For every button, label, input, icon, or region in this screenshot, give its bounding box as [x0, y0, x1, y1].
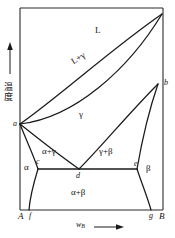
phase-label-liquid: L: [95, 26, 101, 35]
curve-alpha-solvus-lower: [29, 169, 38, 210]
curve-beta-solvus-upper: [137, 84, 158, 169]
point-label-a: a: [13, 120, 17, 128]
phase-label-beta: β: [146, 164, 151, 173]
phase-label-gamma-beta: γ+β: [99, 147, 113, 156]
point-label-c: c: [36, 158, 40, 166]
phase-diagram-figure: L L+γ γ α+γ γ+β α β α+β a b c d e f g A …: [0, 0, 175, 238]
point-label-b: b: [164, 79, 168, 87]
point-label-g: g: [149, 212, 153, 220]
x-axis-title-subscript: B: [81, 223, 85, 229]
x-axis-arrow-icon: [94, 224, 124, 230]
phase-label-alpha-gamma: α+γ: [42, 147, 56, 156]
phase-label-gamma: γ: [79, 110, 83, 119]
axis-label-component-a: A: [18, 212, 24, 221]
x-axis-title: wB: [76, 221, 85, 230]
axis-label-component-b: B: [159, 212, 165, 221]
curve-beta-solvus-lower: [137, 169, 151, 210]
y-axis-title: 温度: [3, 82, 12, 102]
point-label-d: d: [76, 172, 80, 180]
phase-label-alpha: α: [24, 163, 29, 172]
diagram-frame: [20, 8, 163, 210]
point-label-f: f: [29, 212, 31, 220]
y-axis-arrow-icon: [7, 42, 13, 74]
phase-diagram-canvas: [0, 0, 175, 238]
curve-liquidus: [20, 14, 162, 124]
point-label-e: e: [134, 160, 138, 168]
phase-label-alpha-beta: α+β: [71, 188, 85, 197]
